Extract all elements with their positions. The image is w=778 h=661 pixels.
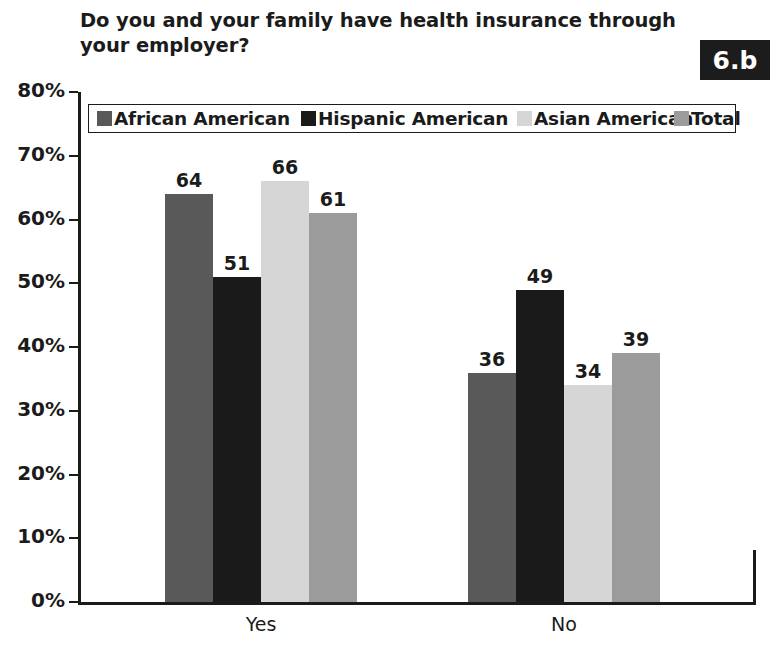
- chart-figure: Do you and your family have health insur…: [0, 0, 778, 661]
- bar-value-label: 49: [516, 265, 564, 287]
- bar-value-label: 34: [564, 360, 612, 382]
- bar-yes-hispanic-american: [213, 277, 261, 602]
- bar-value-label: 64: [165, 169, 213, 191]
- bar-value-label: 36: [468, 348, 516, 370]
- bar-value-label: 51: [213, 252, 261, 274]
- bar-yes-total: [309, 213, 357, 602]
- bar-no-african-american: [468, 373, 516, 603]
- bar-value-label: 39: [612, 328, 660, 350]
- x-axis-category-label: Yes: [165, 613, 357, 635]
- x-axis-category-label: No: [468, 613, 660, 635]
- bar-value-label: 61: [309, 188, 357, 210]
- bar-yes-african-american: [165, 194, 213, 602]
- bar-yes-asian-american: [261, 181, 309, 602]
- bar-value-label: 66: [261, 156, 309, 178]
- bars-layer: 64516661Yes36493439No: [0, 0, 778, 661]
- bar-no-asian-american: [564, 385, 612, 602]
- bar-no-hispanic-american: [516, 290, 564, 602]
- bar-no-total: [612, 353, 660, 602]
